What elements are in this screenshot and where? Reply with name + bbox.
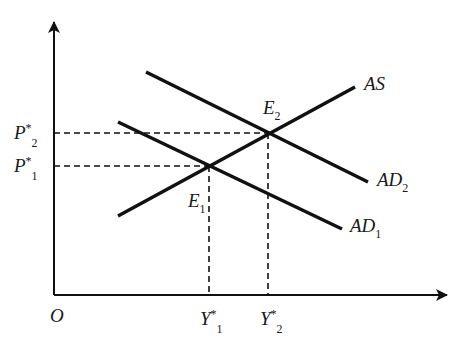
as-curve bbox=[118, 87, 355, 216]
ad1-label: AD1 bbox=[350, 216, 381, 235]
e2-label: E2 bbox=[263, 98, 281, 117]
ad2-label: AD2 bbox=[377, 170, 408, 189]
origin-label: O bbox=[50, 306, 64, 325]
p2-label: P*2 bbox=[14, 123, 38, 142]
p1-label: P*1 bbox=[14, 156, 38, 175]
ad1-curve bbox=[118, 122, 342, 229]
e1-label: E1 bbox=[188, 191, 206, 210]
y2-label: Y*2 bbox=[260, 309, 283, 328]
as-label: AS bbox=[364, 74, 385, 93]
y1-label: Y*1 bbox=[200, 309, 223, 328]
